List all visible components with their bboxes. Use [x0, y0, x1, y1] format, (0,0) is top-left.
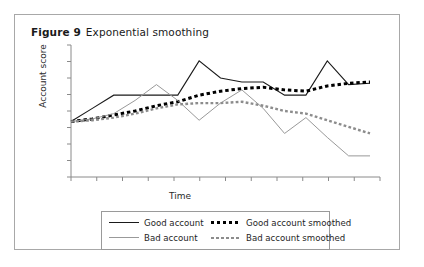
legend-item-good-account: Good account: [102, 218, 211, 228]
chart-series: [71, 61, 370, 156]
legend-label: Bad account smoothed: [246, 233, 345, 243]
legend-label: Good account smoothed: [246, 218, 351, 228]
legend-swatch-good-account-smoothed: [211, 221, 241, 224]
legend-swatch-bad-account-smoothed: [211, 237, 241, 239]
legend-swatch-bad-account: [109, 237, 139, 238]
series-line: [71, 82, 370, 122]
legend-row: Good account Good account smoothed: [102, 215, 329, 230]
legend-row: Bad account Bad account smoothed: [102, 230, 329, 245]
figure-title: Exponential smoothing: [86, 26, 209, 38]
line-chart: [15, 41, 401, 207]
figure-frame: Figure 9Exponential smoothing Account sc…: [14, 14, 400, 250]
legend-item-bad-account: Bad account: [102, 233, 211, 243]
legend-item-good-account-smoothed: Good account smoothed: [211, 218, 329, 228]
y-axis-label: Account score: [38, 31, 48, 121]
legend-label: Good account: [144, 218, 204, 228]
legend-label: Bad account: [144, 233, 198, 243]
figure-caption: Figure 9Exponential smoothing: [31, 26, 209, 38]
legend-swatch-good-account: [109, 222, 139, 223]
legend-item-bad-account-smoothed: Bad account smoothed: [211, 233, 329, 243]
x-axis-label: Time: [15, 191, 345, 201]
series-line: [71, 102, 370, 134]
chart-plot-area: [15, 41, 401, 207]
chart-legend: Good account Good account smoothed Bad a…: [101, 211, 330, 250]
